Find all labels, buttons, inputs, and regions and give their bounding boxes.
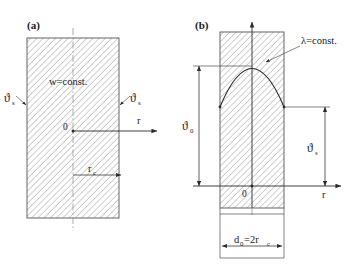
panel-b-origin-label: 0 [242, 189, 247, 199]
panel-b-diameter-expr-sub: c [267, 240, 270, 247]
panel-a-origin-dot [72, 130, 75, 133]
panel-b-origin-dot [251, 185, 254, 188]
panel-b-axis-label: r [322, 189, 326, 200]
panel-a-right-theta-label: ϑ [130, 91, 136, 105]
panel-b-theta0-sub: 0 [190, 127, 194, 134]
panel-a-right-theta-leader [120, 96, 130, 105]
panel-a-radius-sub: c [93, 169, 96, 176]
panel-a-left-theta-label: ϑ [4, 91, 10, 105]
panel-a-interior-label: w=const. [49, 76, 87, 87]
panel-a-group: (a) w=const. ϑ s ϑ s 0 r r c [4, 19, 157, 231]
panel-a-axis-label: r [137, 115, 141, 126]
panel-b-curve-right-end-dot [283, 106, 286, 109]
panel-b-label: (b) [195, 19, 209, 32]
figure-root: (a) w=const. ϑ s ϑ s 0 r r c [0, 0, 355, 266]
panel-b-theta0-label: ϑ [182, 119, 188, 133]
panel-a-origin-label: 0 [63, 122, 68, 132]
panel-b-group: (b) λ=const. ϑ 0 ϑ s 0 r d 0 =2r c [182, 19, 341, 258]
panel-b-thetas-sub: s [315, 149, 318, 156]
panel-b-conductivity-label: λ=const. [301, 35, 337, 46]
panel-b-curve-left-end-dot [219, 106, 222, 109]
panel-b-diameter-expr: =2r [244, 234, 259, 245]
panel-a-label: (a) [27, 19, 40, 32]
panel-a-radius-label: r [88, 163, 92, 174]
panel-a-left-theta-sub: s [12, 99, 15, 106]
panel-a-right-theta-sub: s [138, 99, 141, 106]
panel-b-thetas-label: ϑ [307, 141, 313, 155]
panel-a-left-theta-leader [16, 96, 26, 105]
schematic-svg: (a) w=const. ϑ s ϑ s 0 r r c [0, 0, 355, 266]
